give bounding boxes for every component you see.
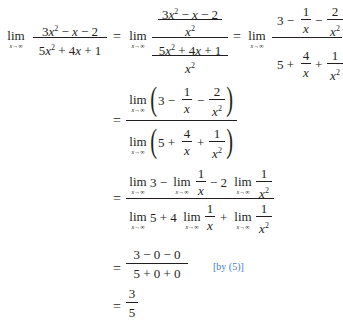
digit: 1: [301, 5, 311, 18]
lhs-denominator: 5x2 + 4x + 1: [33, 41, 107, 57]
digit: 1: [205, 202, 215, 215]
equals-sign: =: [113, 262, 121, 275]
left-paren: (: [150, 124, 157, 158]
fraction-bar: [126, 263, 188, 264]
lim-subscript: x→∞: [245, 43, 269, 49]
equals-sign: =: [233, 30, 241, 43]
digit: 1: [209, 127, 225, 140]
fraction-bar: [152, 55, 228, 56]
x-squared: x2: [209, 144, 225, 160]
minus: −: [197, 94, 204, 107]
var-x: x: [301, 66, 311, 79]
main-fraction-bar: [126, 198, 274, 199]
digit: 4: [301, 49, 311, 62]
lim-subscript: x→∞: [126, 224, 150, 230]
fraction-bar: [301, 63, 311, 64]
minus: −: [315, 14, 322, 27]
equals-sign: =: [113, 300, 121, 313]
x-squared: x2: [327, 66, 343, 82]
right-den-5: 5 +: [277, 58, 294, 71]
term: 3 −: [158, 94, 175, 107]
mid-denominator-bottom: x2: [152, 59, 228, 75]
lim-operator: lim: [128, 176, 148, 188]
lim-subscript: x→∞: [4, 43, 28, 49]
fraction-bar: [256, 216, 272, 217]
term: 5 +: [158, 136, 175, 149]
fraction-bar: [33, 37, 107, 38]
term: − 2: [210, 176, 227, 189]
left-paren: (: [150, 82, 157, 116]
numerator: 3: [126, 287, 138, 300]
mid-numerator-bottom: x2: [152, 22, 228, 38]
main-fraction-bar: [272, 37, 342, 38]
lim-subscript: x→∞: [126, 107, 150, 113]
denominator: 5: [126, 306, 138, 319]
var-x: x: [182, 144, 192, 157]
fraction-bar: [182, 99, 192, 100]
fraction-bar: [182, 141, 192, 142]
annotation-reference: [by (5)]: [213, 260, 244, 273]
main-fraction-bar: [152, 37, 228, 38]
fraction-bar: [158, 19, 222, 20]
plus: +: [197, 136, 204, 149]
lim-operator: lim: [172, 176, 192, 188]
lim-subscript: x→∞: [180, 224, 204, 230]
fraction-bar: [126, 302, 138, 303]
equals-sign: =: [113, 192, 121, 205]
lim-operator: lim: [6, 30, 26, 42]
lim-operator: lim: [247, 30, 267, 42]
main-fraction-bar: [126, 120, 237, 121]
digit: 1: [182, 85, 192, 98]
lim-subscript: x→∞: [126, 43, 150, 49]
lim-operator: lim: [128, 30, 148, 42]
fraction-bar: [301, 19, 311, 20]
term: 5 + 4: [150, 211, 177, 224]
fraction-bar: [327, 19, 343, 20]
var-x: x: [301, 22, 311, 35]
x-squared: x2: [209, 102, 225, 118]
fraction-bar: [209, 99, 225, 100]
lim-operator: lim: [233, 176, 253, 188]
lim-subscript: x→∞: [231, 189, 255, 195]
digit: 1: [256, 202, 272, 215]
right-num-3: 3 −: [277, 14, 294, 27]
digit: 2: [209, 85, 225, 98]
equals-sign: =: [113, 30, 121, 43]
fraction-bar: [327, 63, 343, 64]
term: 3 −: [150, 176, 167, 189]
equals-sign: =: [113, 114, 121, 127]
plus: +: [315, 58, 322, 71]
var-x: x: [205, 219, 215, 232]
right-paren: ): [226, 124, 233, 158]
var-x: x: [182, 102, 192, 115]
lim-operator: lim: [182, 211, 202, 223]
lim-operator: lim: [128, 94, 148, 106]
lim-operator: lim: [128, 136, 148, 148]
digit: 2: [327, 5, 343, 18]
fraction-bar: [209, 141, 225, 142]
x-squared: x2: [327, 22, 343, 38]
lim-subscript: x→∞: [170, 189, 194, 195]
right-paren: ): [226, 82, 233, 116]
fraction-bar: [256, 181, 272, 182]
lhs-numerator: 3x2 − x − 2: [33, 22, 107, 38]
digit: 4: [182, 127, 192, 140]
lim-operator: lim: [233, 211, 253, 223]
digit: 1: [256, 167, 272, 180]
fraction-bar: [205, 216, 215, 217]
plus: +: [220, 211, 227, 224]
lim-subscript: x→∞: [126, 149, 150, 155]
numerator: 3 − 0 − 0: [126, 248, 188, 261]
lim-subscript: x→∞: [231, 224, 255, 230]
lim-subscript: x→∞: [126, 189, 150, 195]
var-x: x: [196, 184, 206, 197]
fraction-bar: [196, 181, 206, 182]
digit: 1: [196, 167, 206, 180]
digit: 1: [327, 49, 343, 62]
lim-operator: lim: [128, 211, 148, 223]
denominator: 5 + 0 + 0: [126, 267, 188, 280]
x-squared: x2: [256, 219, 272, 235]
